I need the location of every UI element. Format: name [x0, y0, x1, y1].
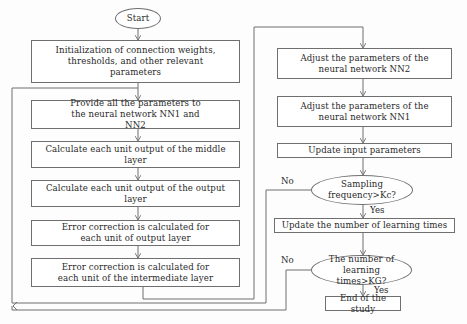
- sampling-decision: Sampling frequency>Kc?: [311, 175, 413, 205]
- flowchart-canvas: Start Initialization of connection weigh…: [0, 0, 467, 324]
- error-output-box: Error correction is calculated for each …: [31, 220, 240, 246]
- init-box: Initialization of connection weights, th…: [31, 40, 240, 83]
- sampling-no-label: No: [281, 176, 294, 186]
- learning-decision: The number of learning times>KG?: [311, 255, 412, 285]
- adjust-nn2-box: Adjust the parameters of the neural netw…: [277, 48, 452, 79]
- sampling-yes-label: Yes: [370, 205, 384, 215]
- provide-params-box: Provide all the parameters to the neural…: [31, 100, 240, 129]
- learning-yes-label: Yes: [374, 285, 388, 295]
- middle-layer-box: Calculate each unit output of the middle…: [31, 141, 240, 168]
- learning-no-label: No: [281, 255, 294, 265]
- start-node: Start: [115, 8, 161, 29]
- update-learning-box: Update the number of learning times: [274, 218, 455, 233]
- adjust-nn1-box: Adjust the parameters of the neural netw…: [277, 96, 452, 127]
- end-box: End of the study: [325, 296, 401, 311]
- update-input-box: Update input parameters: [277, 143, 452, 158]
- output-layer-box: Calculate each unit output of the output…: [31, 180, 240, 207]
- error-intermediate-box: Error correction is calculated for each …: [31, 258, 240, 287]
